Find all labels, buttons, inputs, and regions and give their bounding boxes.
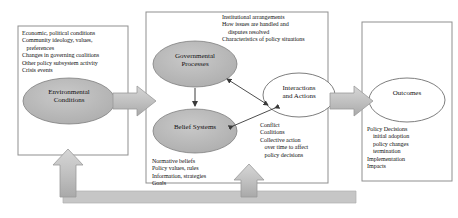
governmental-processes-label: Governmental Processes (152, 52, 238, 69)
diagram-canvas: Economic, political conditions Community… (0, 0, 458, 218)
environmental-conditions-label: Environmental Conditions (26, 88, 112, 105)
interactions-and-actions-list: Conflict Coalitions Collective action ov… (260, 122, 308, 159)
belief-systems-list: Normative beliefs Policy values, rules I… (152, 158, 206, 188)
institutional-arrangements-list: Institutional arrangements How issues ar… (222, 14, 305, 44)
external-parameters-list: Economic, political conditions Community… (22, 30, 99, 74)
outcomes-node (369, 78, 445, 122)
feedback-bar (63, 191, 356, 203)
outcomes-label: Outcomes (370, 89, 444, 97)
feedback-arrow-to-environment (53, 149, 83, 197)
outcomes-list: Policy Decisions initial adoption policy… (367, 126, 409, 170)
interactions-and-actions-label: Interactions and Actions (262, 84, 336, 101)
belief-systems-label: Belief Systems (152, 123, 238, 131)
